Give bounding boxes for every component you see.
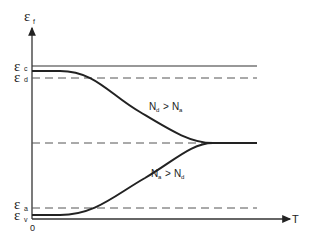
svg-text:ε: ε — [24, 8, 30, 24]
svg-text:a: a — [24, 205, 28, 212]
fermi-level-diagram: ε f ε c ε d ε a ε v 0 T N d > N a N a > … — [0, 0, 313, 247]
x-axis-label: T — [292, 213, 299, 225]
svg-text:f: f — [33, 18, 35, 25]
svg-text:d: d — [181, 174, 184, 180]
origin-label: 0 — [30, 223, 35, 233]
svg-text:ε: ε — [14, 207, 20, 223]
svg-text:>: > — [163, 101, 169, 112]
svg-text:ε: ε — [14, 69, 20, 85]
p-type-annotation: N a > N d — [151, 168, 184, 180]
svg-text:c: c — [24, 65, 28, 72]
svg-text:v: v — [24, 216, 28, 223]
y-axis-label: ε f — [24, 8, 35, 25]
n-type-annotation: N d > N a — [149, 101, 183, 113]
p-type-fermi-curve — [32, 143, 213, 215]
svg-text:d: d — [24, 76, 28, 83]
svg-text:>: > — [165, 168, 171, 179]
n-type-fermi-curve — [32, 71, 257, 143]
svg-text:d: d — [156, 107, 159, 113]
svg-text:a: a — [158, 174, 162, 180]
svg-text:a: a — [179, 107, 183, 113]
